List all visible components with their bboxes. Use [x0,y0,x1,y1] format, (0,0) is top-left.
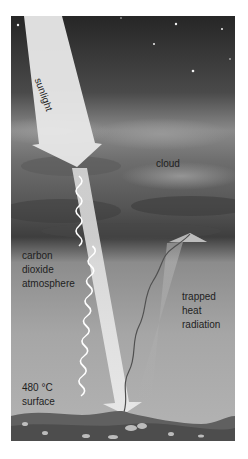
label-line: 480 °C [22,381,55,395]
star-icon [229,58,231,60]
label-line: radiation [182,318,220,332]
star-icon [153,43,155,45]
label-heat-radiation: trapped heat radiation [182,290,220,332]
label-line: trapped [182,290,220,304]
label-surface: 480 °C surface [22,381,55,409]
star-icon [120,17,121,18]
label-cloud: cloud [156,157,180,171]
diagram-frame: sunlight cloud carbon dioxide atmosphere… [11,16,235,441]
label-line: atmosphere [22,277,75,291]
star-icon [175,23,177,25]
star-icon [221,28,223,30]
label-line: carbon [22,249,75,263]
star-icon [192,70,195,73]
label-atmosphere: carbon dioxide atmosphere [22,249,75,291]
star-icon [17,24,19,26]
label-line: surface [22,395,55,409]
label-line: heat [182,304,220,318]
label-line: dioxide [22,263,75,277]
